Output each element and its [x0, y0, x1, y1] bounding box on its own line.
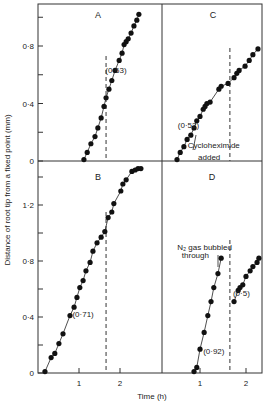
data-point [219, 84, 224, 89]
data-point [247, 58, 252, 63]
data-point [231, 299, 236, 304]
panel-a: 00·40·8(0·63) [22, 12, 141, 166]
data-point [202, 330, 207, 335]
data-point [188, 133, 193, 138]
y-tick-label: 0 [30, 157, 35, 166]
data-point [215, 271, 220, 276]
data-point [197, 347, 202, 352]
data-point [90, 249, 95, 254]
panel-label-d: D [209, 172, 216, 182]
data-point [205, 313, 210, 318]
annotation: added [198, 153, 220, 162]
data-point [211, 285, 216, 290]
data-point [126, 36, 131, 41]
data-point [81, 278, 86, 283]
data-point [128, 30, 133, 35]
data-point [74, 295, 79, 300]
data-point [134, 18, 139, 23]
x-tick-label: 2 [244, 379, 249, 388]
annotation: (0·5) [233, 289, 250, 298]
panels: 00·40·8(0·63)00·40·81·212(0·71)(0·52)Cyc… [22, 12, 261, 388]
data-point [250, 264, 255, 269]
data-point [250, 52, 255, 57]
data-point [181, 144, 186, 149]
y-tick-label: 1·2 [22, 201, 34, 210]
data-point [120, 181, 125, 186]
data-point [138, 166, 143, 171]
annotation: (0·52) [178, 121, 200, 130]
data-point [131, 23, 136, 28]
data-point [49, 355, 54, 360]
data-point [219, 256, 224, 261]
annotation: Cycloheximide [188, 141, 241, 150]
data-point [237, 68, 242, 73]
data-point [52, 351, 57, 356]
data-point [231, 75, 236, 80]
x-axis-label: Time (h) [137, 392, 167, 401]
panel-d: 12N₂ gas bubbledthrough(0·92)(0·5) [177, 240, 261, 388]
y-tick-label: 0·4 [22, 100, 34, 109]
data-point [256, 256, 261, 261]
y-tick-label: 0·4 [22, 313, 34, 322]
annotation: (0·71) [72, 310, 94, 319]
data-point [255, 46, 260, 51]
data-point [242, 64, 247, 69]
annotation: through [182, 251, 209, 260]
data-point [240, 282, 245, 287]
data-point [106, 215, 111, 220]
data-point [243, 274, 248, 279]
y-tick-label: 0 [30, 369, 35, 378]
panel-b: 00·40·81·212(0·71) [22, 166, 143, 388]
data-point [77, 285, 82, 290]
annotation: (0·63) [105, 66, 127, 75]
data-point [95, 125, 100, 130]
data-point [87, 260, 92, 265]
panel-label-b: B [95, 172, 101, 182]
y-tick-label: 0·8 [22, 257, 34, 266]
data-point [178, 150, 183, 155]
data-point [136, 12, 141, 17]
panel-c: (0·52)Cycloheximideadded [174, 46, 260, 162]
data-point [106, 87, 111, 92]
annotation: (0·92) [203, 347, 225, 356]
four-panel-figure: 00·40·8(0·63)00·40·81·212(0·71)(0·52)Cyc… [0, 0, 270, 406]
data-point [85, 150, 90, 155]
data-point [225, 81, 230, 86]
data-point [109, 78, 114, 83]
y-tick-label: 0·8 [22, 42, 34, 51]
data-point [208, 99, 213, 104]
data-point [94, 240, 99, 245]
data-point [194, 365, 199, 370]
panel-label-c: C [210, 10, 217, 20]
data-point [208, 299, 213, 304]
data-point [111, 201, 116, 206]
panel-label-a: A [95, 10, 101, 20]
data-point [103, 95, 108, 100]
data-point [88, 141, 93, 146]
data-point [60, 331, 65, 336]
data-point [56, 341, 61, 346]
data-point [99, 235, 104, 240]
data-point [83, 268, 88, 273]
data-point [117, 58, 122, 63]
data-point [71, 305, 76, 310]
data-point [197, 114, 202, 119]
x-tick-label: 2 [118, 379, 123, 388]
data-point [174, 157, 179, 162]
data-point [124, 177, 129, 182]
data-point [42, 369, 47, 374]
x-tick-label: 1 [77, 379, 82, 388]
y-axis-label: Distance of root tip from a fixed point … [3, 114, 12, 266]
x-tick-label: 1 [198, 379, 203, 388]
data-point [101, 104, 106, 109]
data-point [81, 157, 86, 162]
data-point [118, 188, 123, 193]
data-point [102, 229, 107, 234]
data-point [92, 134, 97, 139]
data-point [99, 115, 104, 120]
data-point [109, 209, 114, 214]
data-point [119, 51, 124, 56]
